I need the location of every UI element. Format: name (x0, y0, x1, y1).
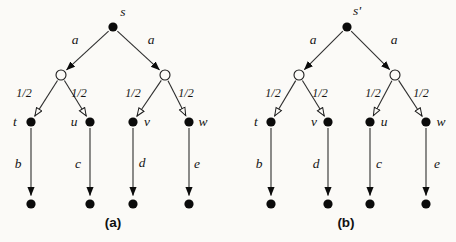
paper-background (0, 0, 456, 242)
chance-node-left (294, 70, 304, 80)
chance-node-right (160, 70, 170, 80)
root-label: s' (353, 3, 362, 18)
prob-label: 1/2 (178, 86, 193, 100)
prob-label: 1/2 (16, 86, 31, 100)
prob-label: 1/2 (265, 86, 280, 100)
leaf-action-label: d (313, 156, 320, 171)
leaf-node (266, 199, 275, 208)
prob-label: 1/2 (413, 86, 428, 100)
state-node-u (365, 117, 374, 126)
state-node-u (85, 117, 94, 126)
prob-label: 1/2 (365, 86, 380, 100)
state-node-t (26, 117, 35, 126)
state-label: v (311, 114, 317, 129)
state-label: v (144, 114, 150, 129)
state-label: u (381, 114, 388, 129)
prob-label: 1/2 (312, 86, 327, 100)
action-label: a (391, 32, 398, 47)
caption-b: (b) (337, 215, 354, 230)
root-node-s-prime (342, 22, 351, 31)
state-node-v (128, 117, 137, 126)
action-label: a (72, 32, 79, 47)
state-node-t (266, 117, 275, 126)
leaf-node (421, 199, 430, 208)
leaf-node (26, 199, 35, 208)
leaf-action-label: b (15, 156, 22, 171)
root-label: s (120, 4, 125, 19)
state-label: w (198, 114, 207, 129)
leaf-node (184, 199, 193, 208)
leaf-node (323, 199, 332, 208)
leaf-action-label: d (139, 155, 146, 170)
leaf-node (128, 199, 137, 208)
state-node-w (421, 117, 430, 126)
action-label: a (310, 32, 317, 47)
root-node-s (108, 22, 117, 31)
state-node-w (184, 117, 193, 126)
transition-trees-figure: s a a 1/2 1/2 1/2 1/2 t u v w b c d e (a… (0, 0, 456, 242)
leaf-action-label: e (434, 156, 440, 171)
prob-label: 1/2 (125, 86, 140, 100)
leaf-action-label: b (256, 156, 263, 171)
chance-node-right (390, 70, 400, 80)
action-label: a (148, 32, 155, 47)
caption-a: (a) (105, 215, 122, 230)
prob-label: 1/2 (71, 86, 86, 100)
leaf-node (85, 199, 94, 208)
leaf-node (365, 199, 374, 208)
chance-node-left (56, 70, 66, 80)
leaf-action-label: c (75, 156, 81, 171)
state-node-v (323, 117, 332, 126)
state-label: u (71, 114, 78, 129)
leaf-action-label: e (194, 156, 200, 171)
leaf-action-label: c (376, 156, 382, 171)
state-label: w (436, 114, 445, 129)
figure-canvas: s a a 1/2 1/2 1/2 1/2 t u v w b c d e (a… (0, 0, 456, 242)
